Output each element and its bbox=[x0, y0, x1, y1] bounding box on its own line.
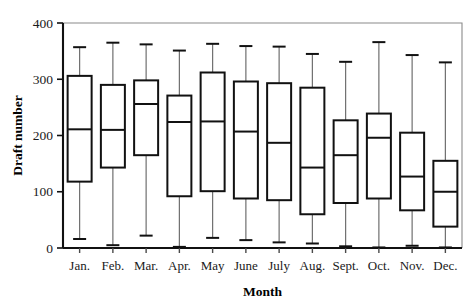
box-rect bbox=[201, 73, 225, 192]
box-rect bbox=[134, 80, 158, 155]
box-rect bbox=[234, 82, 258, 199]
box-rect bbox=[367, 114, 391, 199]
boxplot-canvas: 0100200300400Jan.Feb.Mar.Apr.MayJuneJuly… bbox=[0, 0, 475, 306]
box-group bbox=[68, 47, 92, 239]
box-group bbox=[234, 46, 258, 240]
box-group bbox=[433, 62, 457, 247]
x-tick-label: Sept. bbox=[332, 258, 358, 273]
box-group bbox=[267, 47, 291, 243]
box-group bbox=[101, 43, 125, 246]
box-rect bbox=[433, 161, 457, 227]
y-axis-title: Draft number bbox=[10, 95, 25, 176]
box-rect bbox=[101, 85, 125, 168]
y-tick-label: 400 bbox=[33, 16, 54, 31]
box-rect bbox=[300, 88, 324, 215]
box-group bbox=[400, 55, 424, 246]
x-tick-label: Dec. bbox=[433, 258, 457, 273]
x-tick-label: Aug. bbox=[300, 258, 326, 273]
x-tick-label: Feb. bbox=[102, 258, 125, 273]
box-group bbox=[201, 44, 225, 238]
x-tick-label: Apr. bbox=[168, 258, 191, 273]
box-group bbox=[167, 51, 191, 247]
box-rect bbox=[400, 133, 424, 211]
x-tick-label: Mar. bbox=[134, 258, 158, 273]
box-group bbox=[334, 62, 358, 247]
x-tick-label: June bbox=[234, 258, 258, 273]
x-tick-label: May bbox=[201, 258, 225, 273]
box-rect bbox=[334, 120, 358, 203]
y-tick-label: 300 bbox=[33, 72, 54, 87]
y-tick-label: 0 bbox=[46, 241, 53, 256]
x-tick-label: July bbox=[268, 258, 290, 273]
box-rect bbox=[267, 83, 291, 200]
box-group bbox=[134, 44, 158, 235]
x-tick-label: Jan. bbox=[69, 258, 90, 273]
box-group bbox=[367, 42, 391, 247]
y-tick-label: 200 bbox=[33, 128, 54, 143]
x-tick-label: Oct. bbox=[368, 258, 390, 273]
x-tick-label: Nov. bbox=[400, 258, 425, 273]
x-axis-title: Month bbox=[243, 284, 282, 299]
boxplot-figure: 0100200300400Jan.Feb.Mar.Apr.MayJuneJuly… bbox=[0, 0, 475, 306]
box-group bbox=[300, 54, 324, 244]
box-rect bbox=[167, 96, 191, 197]
y-tick-label: 100 bbox=[33, 184, 54, 199]
